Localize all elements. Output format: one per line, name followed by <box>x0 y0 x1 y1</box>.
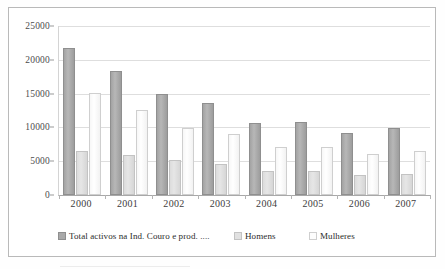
bar-2001-series-0[interactable] <box>110 71 122 195</box>
y-axis-tick-mark <box>50 195 54 196</box>
bar-2000-series-1[interactable] <box>76 151 88 195</box>
x-axis-tick-label-2005: 2005 <box>302 198 323 209</box>
y-axis-tick-mark <box>50 127 54 128</box>
bar-2002-series-0[interactable] <box>156 94 168 195</box>
bar-2007-series-2[interactable] <box>414 151 426 195</box>
x-axis-tick-label-2006: 2006 <box>349 198 370 209</box>
bar-group-2006 <box>341 26 379 195</box>
x-axis-tick-label-2000: 2000 <box>71 198 92 209</box>
bar-group-2001 <box>110 26 148 195</box>
bar-2001-series-2[interactable] <box>136 110 148 195</box>
bar-group-2003 <box>202 26 240 195</box>
chart-legend: Total activos na Ind. Couro e prod. ....… <box>58 228 438 244</box>
y-axis-tick-label: 25000 <box>25 21 50 31</box>
x-axis-tick-mark <box>430 195 431 199</box>
bar-group-2004 <box>249 26 287 195</box>
bar-2006-series-1[interactable] <box>354 175 366 195</box>
page-artefact-line <box>60 266 190 267</box>
legend-item-homens[interactable]: Homens <box>234 231 276 241</box>
x-axis-tick-label-2002: 2002 <box>163 198 184 209</box>
x-axis-tick-label-2004: 2004 <box>256 198 277 209</box>
bar-2000-series-2[interactable] <box>89 93 101 195</box>
x-axis: 20002001200220032004200520062007 <box>58 198 430 216</box>
bar-2005-series-1[interactable] <box>308 171 320 195</box>
bar-2004-series-0[interactable] <box>249 123 261 195</box>
y-axis-tick-mark <box>50 26 54 27</box>
y-axis-tick-label: 10000 <box>25 122 50 132</box>
series-0-swatch-icon <box>58 232 66 240</box>
bar-2005-series-0[interactable] <box>295 122 307 195</box>
legend-label-homens: Homens <box>245 231 276 241</box>
bar-2002-series-1[interactable] <box>169 160 181 195</box>
legend-label-mulheres: Mulheres <box>320 231 355 241</box>
legend-item-total[interactable]: Total activos na Ind. Couro e prod. .... <box>58 231 210 241</box>
bar-2003-series-2[interactable] <box>228 134 240 195</box>
bar-2007-series-1[interactable] <box>401 174 413 195</box>
bar-group-2002 <box>156 26 194 195</box>
y-axis-tick-mark <box>50 59 54 60</box>
bar-2007-series-0[interactable] <box>388 128 400 195</box>
x-axis-tick-label-2003: 2003 <box>210 198 231 209</box>
bar-2006-series-2[interactable] <box>367 154 379 195</box>
chart-figure: 0500010000150002000025000 20002001200220… <box>0 0 445 269</box>
y-axis-tick-mark <box>50 93 54 94</box>
bar-group-2007 <box>388 26 426 195</box>
bar-2001-series-1[interactable] <box>123 155 135 195</box>
bar-2003-series-0[interactable] <box>202 103 214 195</box>
y-axis-tick-label: 20000 <box>25 55 50 65</box>
y-axis-tick-label: 15000 <box>25 89 50 99</box>
bar-2004-series-2[interactable] <box>275 147 287 195</box>
bar-2006-series-0[interactable] <box>341 133 353 195</box>
plot-area <box>58 26 430 196</box>
bar-group-2000 <box>63 26 101 195</box>
x-axis-tick-label-2007: 2007 <box>395 198 416 209</box>
bar-2000-series-0[interactable] <box>63 48 75 195</box>
legend-item-mulheres[interactable]: Mulheres <box>309 231 355 241</box>
bar-group-2005 <box>295 26 333 195</box>
series-1-swatch-icon <box>234 232 242 240</box>
bar-2004-series-1[interactable] <box>262 171 274 195</box>
y-axis: 0500010000150002000025000 <box>10 26 54 196</box>
y-axis-tick-mark <box>50 161 54 162</box>
y-axis-tick-label: 5000 <box>30 156 50 166</box>
series-2-swatch-icon <box>309 232 317 240</box>
bar-2003-series-1[interactable] <box>215 164 227 195</box>
x-axis-tick-label-2001: 2001 <box>117 198 138 209</box>
bar-2002-series-2[interactable] <box>182 128 194 195</box>
bar-2005-series-2[interactable] <box>321 147 333 195</box>
legend-label-total: Total activos na Ind. Couro e prod. .... <box>69 231 210 241</box>
